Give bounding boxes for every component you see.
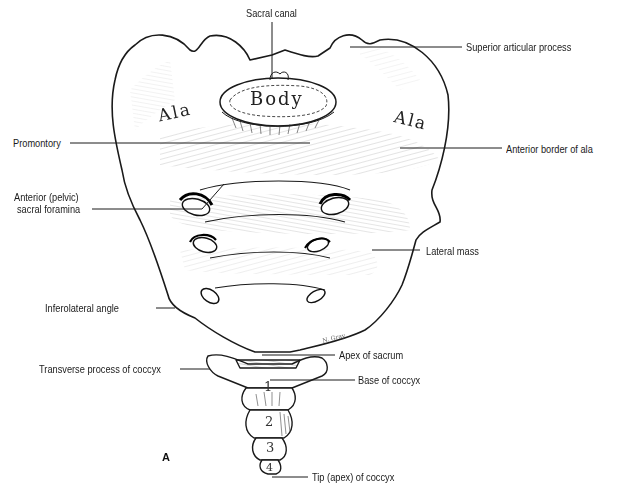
label-anterior-sacral-foramina-line1: Anterior (pelvic) <box>14 191 79 203</box>
label-inferolateral-angle: Inferolateral angle <box>45 302 119 314</box>
panel-letter: A <box>162 451 170 463</box>
sacrum-illustration <box>0 0 619 488</box>
coccyx-segment-3: 3 <box>266 440 274 455</box>
label-lateral-mass: Lateral mass <box>426 245 479 257</box>
label-sacral-canal: Sacral canal <box>246 7 297 19</box>
coccyx-segment-4: 4 <box>266 461 273 474</box>
label-superior-articular-process: Superior articular process <box>466 41 571 53</box>
label-base-of-coccyx: Base of coccyx <box>358 374 420 386</box>
coccyx-segment-1: 1 <box>264 379 272 394</box>
label-promontory: Promontory <box>13 137 61 149</box>
label-anterior-border-of-ala: Anterior border of ala <box>506 143 593 155</box>
coccyx-segment-2: 2 <box>265 414 273 429</box>
label-apex-of-sacrum: Apex of sacrum <box>339 349 403 361</box>
label-tip-of-coccyx: Tip (apex) of coccyx <box>312 471 394 483</box>
body-label: Body <box>250 88 304 109</box>
label-anterior-sacral-foramina-line2: sacral foramina <box>17 203 80 215</box>
label-transverse-process-of-coccyx: Transverse process of coccyx <box>39 363 161 375</box>
sacrum-coccyx-figure: Ala Body Ala 1 2 3 4 Sacral canal Superi… <box>0 0 619 488</box>
